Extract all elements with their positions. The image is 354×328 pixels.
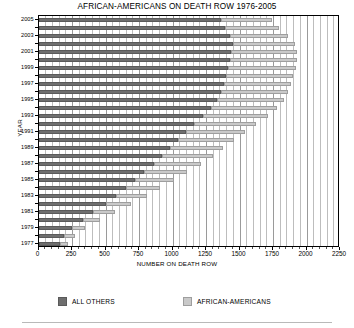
x-tick-mark [165,247,166,249]
bar-row [39,18,341,22]
bar-segment-african-americans [154,162,201,166]
bar-segment-all-others [39,50,232,54]
x-tick-mark [319,247,320,249]
y-tick-mark [35,187,38,188]
y-tick-label: 1979 [0,224,34,230]
chart-title: AFRICAN-AMERICANS ON DEATH ROW 1976-2005 [0,2,354,11]
bar-segment-african-americans [231,50,297,54]
bar-segment-african-americans [170,146,224,150]
bar-row [39,138,341,142]
y-axis-title: YEAR [16,108,23,148]
bar-row [39,90,341,94]
bar-segment-african-americans [230,58,297,62]
bars-layer [39,16,339,246]
bar-segment-all-others [39,34,231,38]
bar-row [39,194,341,198]
chart-legend: ALL OTHERS AFRICAN-AMERICANS [0,297,354,315]
footer-divider [22,322,332,323]
bar-segment-all-others [39,138,178,142]
y-tick-mark [35,91,38,92]
x-tick-mark [312,247,313,249]
x-tick-mark [245,247,246,249]
bar-segment-african-americans [162,154,213,158]
x-axis-title: NUMBER ON DEATH ROW [0,260,354,267]
bar-segment-african-americans [60,242,68,246]
x-tick-mark [265,247,266,249]
bar-segment-african-americans [217,98,284,102]
bar-segment-african-americans [135,178,174,182]
bar-segment-african-americans [228,66,296,70]
y-tick-label: 1981 [0,208,34,214]
y-tick-label: 1985 [0,176,34,182]
bar-row [39,58,341,62]
bar-segment-all-others [39,146,170,150]
x-tick-mark [84,247,85,249]
bar-row [39,74,341,78]
bar-segment-african-americans [224,82,291,86]
bar-row [39,170,341,174]
bar-segment-african-americans [225,26,279,30]
y-tick-mark [35,139,38,140]
bar-row [39,34,341,38]
x-tick-mark [78,247,79,249]
x-tick-mark [125,247,126,249]
bar-segment-all-others [39,122,194,126]
bar-segment-african-americans [93,210,114,214]
y-tick-label: 2005 [0,16,34,22]
x-tick-mark [131,247,132,249]
y-tick-mark [35,163,38,164]
x-tick-mark [178,247,179,249]
y-tick-label: 1987 [0,160,34,166]
bar-row [39,146,341,150]
bar-row [39,42,341,46]
bar-segment-african-americans [230,34,288,38]
x-tick-mark [192,247,193,249]
bar-segment-all-others [39,226,73,230]
x-tick-mark [185,247,186,249]
y-tick-mark [35,35,38,36]
legend-label-all-others: ALL OTHERS [72,298,115,305]
bar-row [39,210,341,214]
y-tick-mark [35,171,38,172]
bar-row [39,178,341,182]
y-tick-mark [35,195,38,196]
x-tick-mark [58,247,59,249]
x-tick-mark [326,247,327,249]
y-tick-mark [35,123,38,124]
bar-segment-all-others [39,58,231,62]
y-tick-mark [35,219,38,220]
x-tick-mark [285,247,286,249]
bar-segment-african-americans [233,42,295,46]
x-tick-mark [64,247,65,249]
bar-segment-african-americans [106,202,131,206]
y-tick-mark [35,67,38,68]
bar-row [39,226,341,230]
bar-segment-african-americans [178,138,234,142]
bar-segment-all-others [39,26,226,30]
bar-segment-all-others [39,194,117,198]
bar-segment-all-others [39,18,221,22]
bar-row [39,106,341,110]
bar-segment-african-americans [194,122,256,126]
bar-row [39,162,341,166]
y-tick-label: 2003 [0,32,34,38]
bar-segment-all-others [39,130,186,134]
x-tick-mark [151,247,152,249]
x-tick-mark [145,247,146,249]
x-tick-mark [44,247,45,249]
bar-segment-all-others [39,186,126,190]
y-tick-mark [35,203,38,204]
x-tick-mark [232,247,233,249]
y-tick-label: 1997 [0,80,34,86]
bar-segment-all-others [39,98,217,102]
bar-segment-african-americans [211,106,277,110]
bar-segment-all-others [39,218,83,222]
bar-segment-all-others [39,106,212,110]
bar-segment-all-others [39,90,221,94]
bar-segment-all-others [39,210,94,214]
x-tick-mark [292,247,293,249]
legend-item-all-others: ALL OTHERS [58,297,115,306]
x-tick-mark [91,247,92,249]
bar-segment-african-americans [72,226,85,230]
y-tick-mark [35,211,38,212]
